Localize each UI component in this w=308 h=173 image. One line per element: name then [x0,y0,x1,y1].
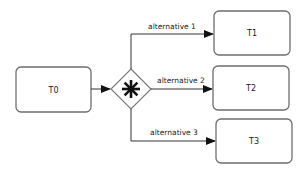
task-t2[interactable]: T2 [213,66,289,110]
task-t2-label: T2 [245,84,256,93]
task-t3-label: T3 [248,137,259,146]
complex-gateway[interactable] [111,69,151,109]
flow-label-alternative-3: alternative 3 [150,128,198,137]
flow-label-alternative-2: alternative 2 [157,76,205,85]
task-t0-label: T0 [48,86,59,95]
task-t3[interactable]: T3 [216,119,292,163]
flow-alternative-1[interactable]: alternative 1 [131,22,213,69]
flow-label-alternative-1: alternative 1 [148,22,196,31]
asterisk-icon [122,80,140,98]
task-t1[interactable]: T1 [214,11,290,55]
flow-alternative-2[interactable]: alternative 2 [151,76,212,89]
task-t1-label: T1 [246,29,257,38]
flow-alternative-3[interactable]: alternative 3 [131,109,215,141]
bpmn-diagram: T0 alternative 1 alternative 2 alternati… [0,0,308,173]
task-t0[interactable]: T0 [16,67,91,112]
